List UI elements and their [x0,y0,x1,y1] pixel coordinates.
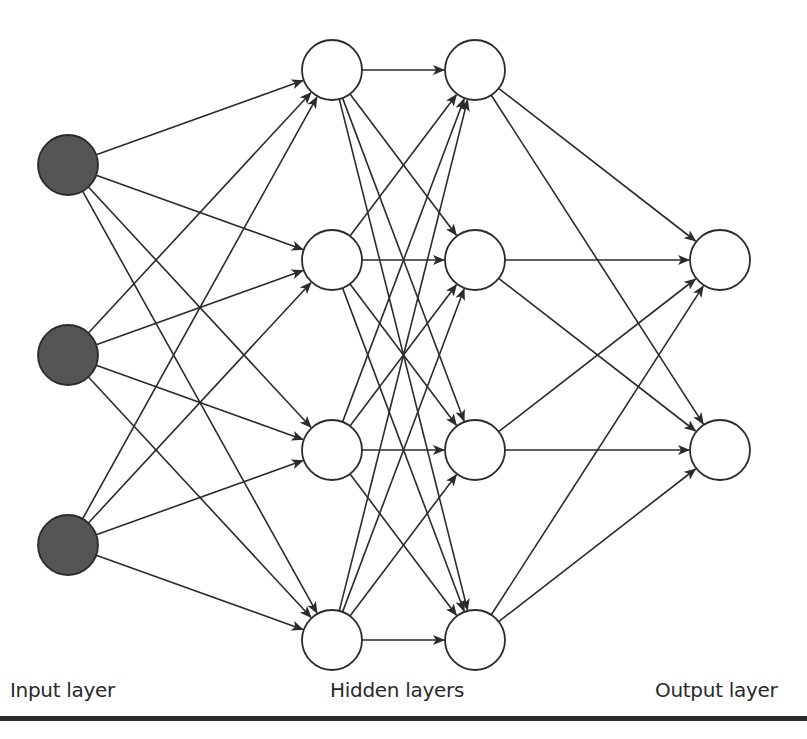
bottom-divider [0,716,807,721]
hidden2-node-4 [445,610,505,670]
hidden1-node-2 [302,230,362,290]
hidden1-node-1 [302,40,362,100]
output-layer-label: Output layer [655,678,777,702]
connection-edges [83,70,704,640]
hidden1-node-4 [302,610,362,670]
edge-input-1-to-hidden1-0 [88,93,311,333]
input-node-2 [38,325,98,385]
hidden-layers-label: Hidden layers [330,678,464,702]
edge-hidden2-3-to-output-1 [499,469,696,622]
hidden2-node-2 [445,230,505,290]
edge-input-2-to-hidden1-2 [96,461,303,535]
neuron-nodes [38,40,750,670]
input-node-3 [38,515,98,575]
neural-network-diagram [0,0,807,739]
hidden1-node-3 [302,420,362,480]
output-node-1 [690,230,750,290]
edge-input-2-to-hidden1-3 [96,555,303,629]
output-node-2 [690,420,750,480]
hidden2-node-3 [445,420,505,480]
edge-hidden2-0-to-output-0 [499,88,696,241]
input-node-1 [38,135,98,195]
edge-input-0-to-hidden1-0 [96,81,303,155]
edge-input-2-to-hidden1-0 [83,97,317,519]
input-layer-label: Input layer [10,678,115,702]
hidden2-node-1 [445,40,505,100]
edge-input-2-to-hidden1-1 [88,283,311,523]
